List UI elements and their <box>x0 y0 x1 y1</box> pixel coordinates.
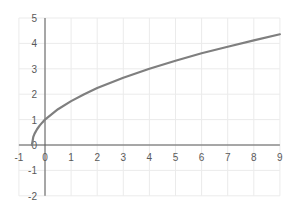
chart: -10123456789 543210-1-2 <box>0 0 294 212</box>
x-tick-label: 8 <box>251 152 257 163</box>
x-tick-label: 3 <box>121 152 127 163</box>
x-tick-label: 2 <box>94 152 100 163</box>
y-tick-label: 4 <box>31 38 37 49</box>
y-tick-label: 1 <box>31 115 37 126</box>
x-tick-label: 4 <box>147 152 153 163</box>
y-tick-label: -1 <box>28 165 37 176</box>
x-tick-label: 9 <box>277 152 283 163</box>
y-tick-label: 2 <box>31 89 37 100</box>
x-tick-label: 7 <box>225 152 231 163</box>
x-tick-label: 0 <box>42 152 48 163</box>
y-tick-label: 3 <box>31 64 37 75</box>
x-tick-label: 1 <box>68 152 74 163</box>
x-tick-label: 6 <box>199 152 205 163</box>
x-axis-tick-labels: -10123456789 <box>14 152 283 163</box>
x-tick-label: -1 <box>14 152 23 163</box>
x-tick-label: 5 <box>173 152 179 163</box>
data-series-line <box>32 34 280 145</box>
y-tick-label: -2 <box>28 191 37 202</box>
y-axis-tick-labels: 543210-1-2 <box>28 13 37 202</box>
y-tick-label: 5 <box>31 13 37 24</box>
